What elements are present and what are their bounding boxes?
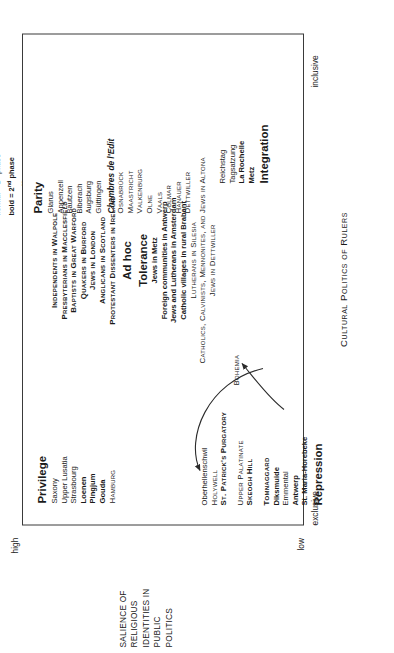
list-item: St. Patrick's Purgatory	[219, 412, 229, 505]
list-item: Pingjum	[88, 456, 98, 504]
list-item: Hanauer	[174, 138, 184, 213]
cluster-integration-list: Reichstag Tagsatzung La Rochelle Metz	[218, 124, 256, 183]
list-item: Gouda	[98, 456, 108, 504]
list-item: Augsburg	[84, 138, 94, 213]
y-axis-caption-line-4: PUBLIC	[152, 535, 163, 647]
cluster-repression-title: Repression	[312, 412, 324, 505]
list-spacer	[229, 412, 236, 505]
list-item: La Rochelle	[237, 124, 247, 183]
list-item: Biberach	[75, 138, 85, 213]
y-axis-caption-line-2: RELIGIOUS	[129, 535, 140, 647]
cluster-repression-list: Oberhellenschwil Holywell St. Patrick's …	[200, 412, 310, 505]
legend-phase1-suffix: phase	[0, 153, 2, 175]
cluster-repression-side-note: Bohemia	[232, 354, 242, 385]
list-item: Upper Lusatia	[60, 456, 70, 504]
list-item: Jews in Dettwiller	[208, 157, 218, 363]
list-item-subheading: Chambres de l'Edit	[107, 138, 117, 213]
cluster-parity-list: Glarus Appenzell Bautzen Biberach Augsbu…	[46, 138, 193, 213]
list-item: Reichstag	[218, 124, 228, 183]
list-spacer	[255, 412, 262, 505]
list-item: Maastricht	[126, 138, 136, 213]
cluster-integration-title: Integration	[258, 124, 270, 183]
cluster-parity-title: Parity	[32, 138, 44, 213]
cluster-parity: Parity Glarus Appenzell Bautzen Biberach…	[32, 138, 193, 213]
list-item: Tagsatzung	[228, 124, 238, 183]
y-axis-caption-line-3: IDENTITIES IN	[141, 535, 152, 647]
legend-phase2-suffix: phase	[8, 157, 17, 180]
list-item: St. Maria-Horebeke	[300, 412, 310, 505]
list-item: Colmar	[164, 138, 174, 213]
list-item: Bohemia	[232, 354, 242, 385]
list-item: Dettwiller	[183, 138, 193, 213]
list-item: Holywell	[210, 412, 220, 505]
list-item: Valkenburg	[135, 138, 145, 213]
list-item: Loenen	[79, 456, 89, 504]
list-item: Appenzell	[56, 138, 66, 213]
y-axis-caption-line-1: SALIENCE OF	[118, 535, 129, 647]
cluster-repression: Oberhellenschwil Holywell St. Patrick's …	[200, 412, 324, 505]
list-item: Skeogh Hill	[245, 412, 255, 505]
list-item: Olne	[145, 138, 155, 213]
list-item: Oberhellenschwil	[200, 412, 210, 505]
list-item: Catholics, Calvinists, Mennonites, and J…	[198, 157, 208, 363]
y-axis-tick-low: low	[296, 537, 306, 550]
list-item: Güttingen	[94, 138, 104, 213]
x-axis-tick-inclusive: inclusive	[310, 55, 320, 87]
list-item: Glarus	[46, 138, 56, 213]
list-item: Saxony	[50, 456, 60, 504]
list-item: Strasbourg	[69, 456, 79, 504]
figure-canvas: high low exclusive inclusive SALIENCE OF…	[0, 0, 394, 653]
list-item: Diksmuide	[272, 412, 282, 505]
cluster-integration: Reichstag Tagsatzung La Rochelle Metz In…	[218, 124, 270, 183]
list-item: Osnabrück	[116, 138, 126, 213]
y-axis-caption: SALIENCE OF RELIGIOUS IDENTITIES IN PUBL…	[118, 535, 175, 647]
legend-item-phase2: bold = 2nd phase	[4, 124, 18, 215]
y-axis-tick-high: high	[10, 537, 20, 553]
list-item: Vaals	[155, 138, 165, 213]
legend-phase2-sup: nd	[6, 180, 12, 187]
cluster-privilege-list: Saxony Upper Lusatia Strasbourg Loenen P…	[50, 456, 117, 504]
list-item: Hamburg	[108, 456, 118, 504]
list-item: Metz	[247, 124, 257, 183]
x-axis-caption: Cultural Politics of Rulers	[338, 33, 349, 525]
list-item: Emmental	[281, 412, 291, 505]
rotated-figure-stage: high low exclusive inclusive SALIENCE OF…	[0, 0, 394, 653]
list-item: Upper Palatinate	[236, 412, 246, 505]
list-item: Bautzen	[65, 138, 75, 213]
side-note-list: Bohemia	[232, 354, 242, 385]
cluster-privilege: Privilege Saxony Upper Lusatia Strasbour…	[36, 456, 117, 504]
legend-phase2-text: bold = 2	[8, 187, 17, 215]
legend-phase1-text: normal = 1	[0, 180, 2, 215]
list-item: Antwerp	[291, 412, 301, 505]
list-item: Tomnaggard	[262, 412, 272, 505]
cluster-privilege-title: Privilege	[36, 456, 48, 504]
y-axis-caption-line-5: POLITICS	[164, 535, 175, 647]
